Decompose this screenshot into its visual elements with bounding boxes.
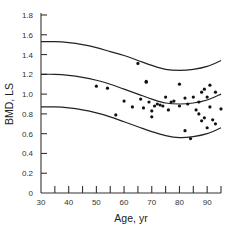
data-point — [156, 102, 159, 105]
data-point — [139, 97, 142, 100]
data-point — [114, 113, 117, 116]
y-tick-label: 0.8 — [22, 110, 34, 119]
x-tick-label: 30 — [37, 198, 46, 207]
data-point — [203, 116, 206, 119]
reference-curves — [41, 42, 221, 138]
data-point — [208, 105, 211, 108]
data-point — [153, 104, 156, 107]
data-point — [106, 87, 109, 90]
curve-lower — [41, 107, 221, 138]
y-tick-label: 0.2 — [22, 169, 34, 178]
data-point — [206, 126, 209, 129]
data-point — [158, 103, 161, 106]
y-tick-label: 0.4 — [22, 149, 34, 158]
data-point — [95, 85, 98, 88]
y-tick-label: 0.6 — [22, 130, 34, 139]
data-point — [200, 91, 203, 94]
data-point — [183, 129, 186, 132]
data-point — [136, 62, 139, 65]
data-point — [214, 122, 217, 125]
data-point — [150, 115, 153, 118]
x-tick-label: 70 — [147, 198, 156, 207]
curve-upper — [41, 42, 221, 71]
data-point — [192, 95, 195, 98]
data-point — [214, 91, 217, 94]
data-point — [211, 118, 214, 121]
data-point — [167, 108, 170, 111]
data-point — [172, 99, 175, 102]
data-point — [178, 83, 181, 86]
x-axis-title: Age, yr — [114, 212, 148, 224]
data-point — [142, 106, 145, 109]
data-point — [164, 95, 167, 98]
x-tick-label: 50 — [92, 198, 101, 207]
y-tick-label: 1.8 — [22, 11, 34, 20]
x-tick-label: 90 — [203, 198, 212, 207]
scatter-chart: 00.20.40.60.81.01.21.41.61.8304050607080… — [0, 0, 237, 233]
data-point — [208, 84, 211, 87]
y-tick-label: 0 — [29, 189, 34, 198]
data-point — [147, 100, 150, 103]
data-point — [178, 104, 181, 107]
x-tick-label: 80 — [175, 198, 184, 207]
data-point — [219, 107, 222, 110]
chart-axes: 00.20.40.60.81.01.21.41.61.8304050607080… — [22, 11, 221, 207]
x-tick-label: 60 — [120, 198, 129, 207]
y-tick-label: 1.4 — [22, 51, 34, 60]
data-point — [200, 119, 203, 122]
data-point — [197, 112, 200, 115]
curve-mean — [41, 74, 221, 104]
y-tick-label: 1.2 — [22, 70, 34, 79]
data-point — [150, 109, 153, 112]
data-point — [206, 95, 209, 98]
data-point — [183, 96, 186, 99]
data-point — [131, 105, 134, 108]
data-point — [145, 81, 148, 84]
data-point — [197, 100, 200, 103]
y-tick-label: 1.6 — [22, 31, 34, 40]
data-point — [170, 100, 173, 103]
x-tick-label: 40 — [64, 198, 73, 207]
data-point — [122, 99, 125, 102]
y-tick-label: 1.0 — [22, 90, 34, 99]
data-point — [161, 104, 164, 107]
data-point — [189, 137, 192, 140]
data-point — [186, 102, 189, 105]
y-axis-title: BMD, LS — [3, 83, 15, 125]
data-point — [203, 88, 206, 91]
data-point — [194, 108, 197, 111]
